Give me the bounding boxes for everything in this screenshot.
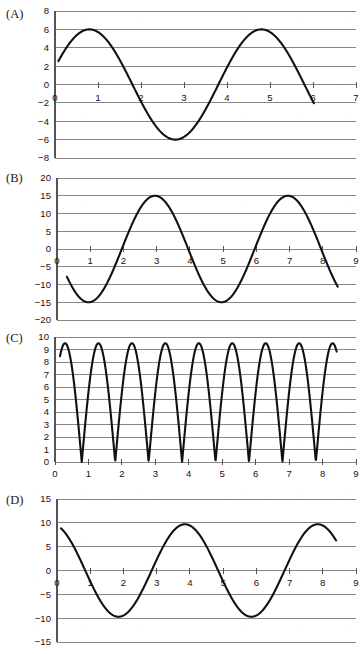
y-tick-label: 15: [40, 190, 51, 201]
x-tick-label: 6: [253, 468, 258, 479]
panel-a: (A) −8−6−4−20246801234567: [0, 0, 364, 170]
panel-a-plot: −8−6−4−20246801234567: [0, 0, 364, 170]
x-tick-label: 2: [121, 255, 126, 266]
y-tick-label: −10: [35, 279, 51, 290]
x-tick-label: 1: [86, 468, 91, 479]
x-tick-label: 7: [353, 92, 358, 103]
y-tick-label: 2: [44, 431, 49, 442]
y-tick-label: −15: [35, 297, 51, 308]
x-tick-label: 6: [254, 255, 259, 266]
x-tick-label: 5: [220, 468, 225, 479]
panel-c: (C) 0123456789100123456789: [0, 325, 364, 490]
panel-b: (B) −20−15−10−5051015200123456789: [0, 165, 364, 330]
x-tick-label: 8: [320, 468, 325, 479]
panel-d-plot: −15−10−50510150123456789: [0, 487, 364, 654]
x-tick-label: 3: [154, 577, 159, 588]
y-tick-label: 15: [40, 493, 51, 504]
y-tick-label: 6: [44, 381, 49, 392]
y-tick-label: 8: [44, 356, 49, 367]
x-tick-label: 1: [95, 92, 100, 103]
x-tick-label: 9: [353, 255, 358, 266]
y-tick-label: 0: [44, 456, 49, 467]
panel-c-plot: 0123456789100123456789: [0, 325, 364, 490]
x-tick-label: 0: [52, 468, 57, 479]
y-tick-label: −10: [35, 613, 51, 624]
y-tick-label: 3: [44, 419, 49, 430]
y-tick-label: 5: [46, 541, 51, 552]
y-tick-label: 8: [44, 5, 49, 16]
y-tick-label: −15: [35, 636, 51, 647]
panel-b-svg: −20−15−10−5051015200123456789: [0, 165, 364, 330]
x-tick-label: 8: [320, 577, 325, 588]
panel-d: (D) −15−10−50510150123456789: [0, 487, 364, 654]
x-tick-label: 3: [181, 92, 186, 103]
y-tick-label: −5: [40, 261, 51, 272]
y-tick-label: 1: [44, 444, 49, 455]
figure-page: (A) −8−6−4−20246801234567 (B) −20−15−10−…: [0, 0, 364, 654]
y-tick-label: 5: [44, 394, 49, 405]
y-tick-label: 7: [44, 369, 49, 380]
y-tick-label: 2: [44, 61, 49, 72]
x-tick-label: 7: [286, 468, 291, 479]
x-tick-label: 0: [54, 577, 59, 588]
panel-a-svg: −8−6−4−20246801234567: [0, 0, 364, 170]
x-tick-label: 4: [186, 468, 192, 479]
y-tick-label: 5: [46, 226, 51, 237]
x-tick-label: 5: [220, 255, 225, 266]
y-tick-label: 0: [46, 565, 51, 576]
y-tick-label: −2: [38, 97, 49, 108]
y-tick-label: 4: [44, 42, 50, 53]
x-tick-label: 4: [187, 577, 193, 588]
y-tick-label: 4: [44, 406, 50, 417]
x-tick-label: 2: [121, 577, 126, 588]
x-tick-label: 0: [52, 92, 57, 103]
x-tick-label: 3: [154, 255, 159, 266]
y-tick-label: 10: [40, 517, 51, 528]
x-tick-label: 2: [119, 468, 124, 479]
panel-b-plot: −20−15−10−5051015200123456789: [0, 165, 364, 330]
y-tick-label: −4: [38, 116, 50, 127]
y-tick-label: −5: [40, 589, 51, 600]
x-tick-label: 7: [287, 255, 292, 266]
y-tick-label: 10: [38, 331, 49, 342]
y-tick-label: 6: [44, 24, 49, 35]
x-tick-label: 0: [54, 255, 59, 266]
x-tick-label: 9: [353, 468, 358, 479]
y-tick-label: −20: [35, 314, 51, 325]
data-curve: [60, 343, 337, 462]
x-tick-label: 3: [153, 468, 158, 479]
x-tick-label: 5: [267, 92, 272, 103]
y-tick-label: 0: [46, 243, 51, 254]
x-tick-label: 7: [287, 577, 292, 588]
x-tick-label: 1: [88, 255, 93, 266]
y-tick-label: 0: [44, 79, 49, 90]
panel-c-svg: 0123456789100123456789: [0, 325, 364, 490]
x-tick-label: 9: [353, 577, 358, 588]
y-tick-label: 20: [40, 172, 51, 183]
y-tick-label: 10: [40, 208, 51, 219]
x-tick-label: 6: [254, 577, 259, 588]
y-tick-label: −6: [38, 134, 49, 145]
y-tick-label: −8: [38, 152, 49, 163]
panel-d-svg: −15−10−50510150123456789: [0, 487, 364, 654]
x-tick-label: 4: [224, 92, 230, 103]
y-tick-label: 9: [44, 344, 49, 355]
